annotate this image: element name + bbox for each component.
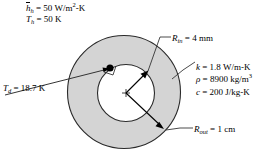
h-value: 50	[43, 3, 52, 13]
td-subscript: d	[8, 87, 11, 94]
rout-value: 1	[217, 124, 222, 134]
k-value: 1.8	[210, 62, 221, 72]
th-value: 50	[44, 14, 53, 24]
c-unit: J/kg-K	[225, 87, 250, 97]
rin-unit: mm	[199, 33, 213, 43]
th-unit: K	[55, 14, 62, 24]
rho-value: 8900	[210, 74, 228, 84]
label-fluid-temperature: Th = 50 K	[26, 14, 62, 25]
h-bar-symbol: h	[26, 3, 31, 14]
td-unit: K	[39, 83, 46, 93]
rho-unit-main: kg/m	[230, 74, 249, 84]
rin-subscript: in	[178, 37, 183, 44]
label-specific-heat: c = 200 J/kg-K	[196, 87, 250, 98]
label-thermal-conductivity: k = 1.8 W/m-K	[196, 62, 250, 73]
figure-canvas: hh = 50 W/m2-K Th = 50 K Rin = 4 mm Td =…	[0, 0, 275, 159]
label-density: ρ = 8900 kg/m3	[196, 74, 252, 85]
k-equals: =	[202, 62, 207, 72]
rin-equals: =	[185, 33, 190, 43]
c-value: 200	[210, 87, 224, 97]
rho-unit-exponent: 3	[249, 72, 252, 79]
overbar	[26, 2, 30, 3]
rout-subscript: out	[200, 128, 208, 135]
rin-symbol: R	[172, 33, 178, 43]
rout-unit: cm	[224, 124, 235, 134]
th-equals: =	[37, 14, 42, 24]
rho-equals: =	[203, 74, 208, 84]
label-surface-temperature: Td = 18.7 K	[3, 83, 45, 94]
surface-point-marker	[106, 64, 113, 71]
td-value: 18.7	[21, 83, 37, 93]
c-equals: =	[202, 87, 207, 97]
label-inner-radius: Rin = 4 mm	[172, 33, 213, 44]
h-unit-exponent: 2	[72, 1, 75, 8]
label-convection-coefficient: hh = 50 W/m2-K	[26, 3, 85, 14]
rout-symbol: R	[194, 124, 200, 134]
h-symbol-glyph: h	[26, 3, 31, 13]
th-subscript: h	[31, 18, 34, 25]
k-symbol: k	[196, 62, 200, 72]
rho-symbol: ρ	[196, 74, 200, 84]
h-unit-tail: -K	[76, 3, 86, 13]
rin-value: 4	[192, 33, 197, 43]
k-unit: W/m-K	[223, 62, 251, 72]
td-equals: =	[14, 83, 19, 93]
c-symbol: c	[196, 87, 200, 97]
h-equals: =	[36, 3, 41, 13]
h-subscript: h	[31, 7, 34, 14]
rout-equals: =	[210, 124, 215, 134]
r-out-leader-line	[166, 128, 193, 130]
h-unit-main: W/m	[54, 3, 72, 13]
label-outer-radius: Rout = 1 cm	[194, 124, 235, 135]
